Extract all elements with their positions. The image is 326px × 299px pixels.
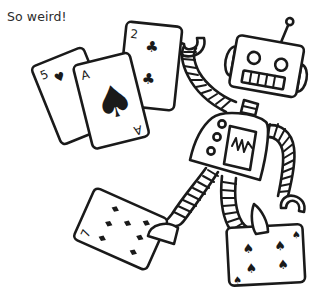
svg-text:♠: ♠ xyxy=(245,260,257,276)
svg-text:♠: ♠ xyxy=(274,238,286,254)
robot-body xyxy=(190,113,268,180)
svg-text:♠: ♠ xyxy=(233,274,243,285)
robot-head xyxy=(221,8,316,99)
right-claw xyxy=(281,196,305,212)
robot-right-foot xyxy=(252,204,268,234)
svg-text:2: 2 xyxy=(130,27,139,42)
svg-text:♣: ♣ xyxy=(144,37,159,56)
svg-text:♠: ♠ xyxy=(292,229,302,240)
svg-text:♠: ♠ xyxy=(277,257,289,273)
svg-text:♣: ♣ xyxy=(141,69,156,88)
robot-card-illustration: 2 ♣ ♣ 5 ♥ ♥ A ♠ A xyxy=(0,0,326,299)
svg-text:♠: ♠ xyxy=(242,241,254,257)
